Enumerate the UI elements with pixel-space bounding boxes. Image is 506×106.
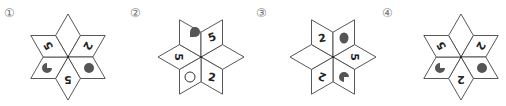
center-dot <box>460 56 462 58</box>
center-dot <box>332 56 334 58</box>
filled-circle-icon <box>84 63 94 73</box>
hexagram-star: 2 5 2 <box>252 0 378 106</box>
filled-circle-icon <box>477 63 487 73</box>
filled-circle-icon <box>340 33 349 44</box>
hexagram-star: 2 2 5 <box>378 0 504 106</box>
digit-5-glyph: 5 <box>348 53 361 61</box>
hexagram-star: 5 2 5 <box>126 0 252 106</box>
option-4[interactable]: ④ 2 2 5 <box>378 0 504 106</box>
pacman-icon <box>190 27 200 37</box>
center-dot <box>200 56 202 58</box>
digit-5-glyph: 5 <box>172 53 185 61</box>
center-dot <box>67 56 69 58</box>
option-2[interactable]: ② 5 2 5 <box>126 0 252 106</box>
option-1[interactable]: ① 2 5 5 <box>0 0 126 106</box>
option-3[interactable]: ③ 2 5 2 <box>252 0 378 106</box>
digit-5-glyph: 5 <box>64 73 72 86</box>
digit-2-glyph: 2 <box>457 73 465 86</box>
hexagram-star: 2 5 5 <box>0 0 126 106</box>
